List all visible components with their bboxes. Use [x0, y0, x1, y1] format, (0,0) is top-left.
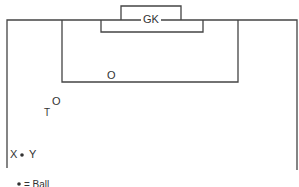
pitch-diagram: [0, 0, 299, 187]
ball-icon: [20, 153, 24, 157]
pitch-boundary: [7, 20, 297, 170]
player-x-label: X: [10, 149, 17, 160]
penalty-area: [62, 20, 238, 82]
opponent-label-1: O: [107, 70, 116, 81]
player-y-label: Y: [29, 149, 36, 160]
goalkeeper-label: GK: [141, 14, 161, 25]
legend-ball-icon: [17, 182, 21, 186]
legend-text: = Ball: [24, 179, 49, 187]
opponent-label-2: O: [52, 96, 61, 107]
teammate-label: T: [44, 107, 50, 118]
